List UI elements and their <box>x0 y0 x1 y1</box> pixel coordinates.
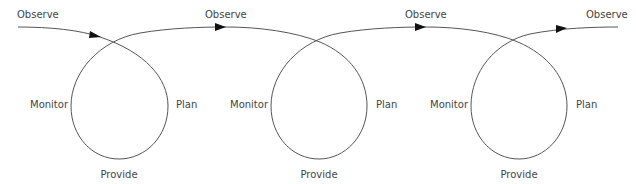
loop-curve <box>426 27 618 159</box>
loop-3-provide-label: Provide <box>500 169 537 181</box>
loop-2-monitor-label: Monitor <box>230 99 268 111</box>
loop-2 <box>226 23 426 159</box>
loop-curve <box>226 27 426 159</box>
loop-diagram <box>0 0 636 184</box>
observe-label-4: Observe <box>586 9 628 21</box>
loop-3 <box>426 25 618 159</box>
loop-1-plan-label: Plan <box>176 99 197 111</box>
loop-3-plan-label: Plan <box>576 99 597 111</box>
arrowhead-icon <box>89 31 101 38</box>
observe-label-1: Observe <box>17 9 59 21</box>
loop-2-provide-label: Provide <box>300 169 337 181</box>
loop-3-monitor-label: Monitor <box>430 99 468 111</box>
loop-1 <box>71 23 226 159</box>
observe-label-2: Observe <box>205 9 247 21</box>
arrowhead-icon <box>415 23 426 31</box>
loop-1-monitor-label: Monitor <box>30 99 68 111</box>
observe-label-3: Observe <box>405 9 447 21</box>
lead-in-curve <box>18 27 100 37</box>
loop-curve <box>71 27 226 159</box>
loop-2-plan-label: Plan <box>376 99 397 111</box>
loop-1-provide-label: Provide <box>100 169 137 181</box>
arrowhead-icon <box>215 23 226 31</box>
